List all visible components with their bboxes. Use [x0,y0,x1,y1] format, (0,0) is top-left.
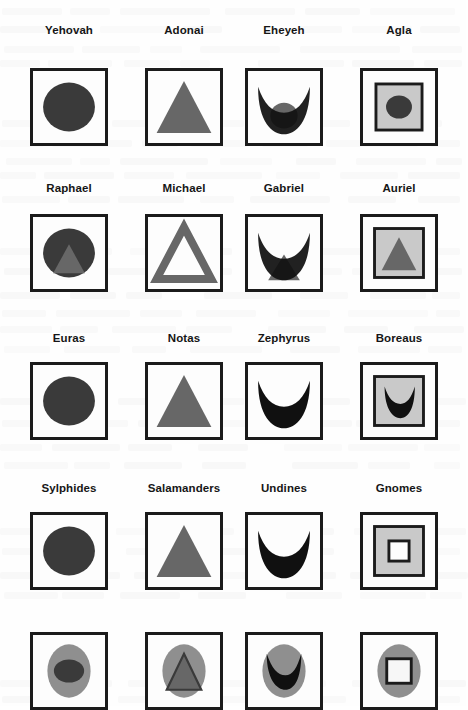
symbol-cell-yehovah [30,68,108,146]
symbol-graphic [33,71,105,143]
symbol-label-sylphides: Sylphides [8,482,130,494]
symbol-label-eheyeh: Eheyeh [223,24,345,36]
symbol-cell-row5-item3 [245,632,323,710]
symbol-cell-agla [360,68,438,146]
symbol-cell-gnomes [360,512,438,590]
symbol-label-gabriel: Gabriel [223,182,345,194]
symbol-graphic [248,515,320,587]
symbol-label-raphael: Raphael [8,182,130,194]
symbol-graphic [148,635,220,707]
symbol-graphic [248,365,320,437]
symbol-cell-salamanders [145,512,223,590]
symbol-cell-auriel [360,214,438,292]
symbol-cell-row5-item1 [30,632,108,710]
symbol-graphic [363,515,435,587]
symbol-cell-row5-item2 [145,632,223,710]
symbol-cell-row5-item4 [360,632,438,710]
symbol-graphic [363,635,435,707]
symbol-label-auriel: Auriel [338,182,460,194]
symbol-cell-sylphides [30,512,108,590]
symbol-cell-boreaus [360,362,438,440]
symbol-cell-gabriel [245,214,323,292]
symbol-cell-adonai [145,68,223,146]
symbol-graphic [148,217,220,289]
symbol-graphic [33,217,105,289]
symbol-graphic [248,635,320,707]
symbol-graphic [248,71,320,143]
symbol-label-euras: Euras [8,332,130,344]
symbol-cell-zephyrus [245,362,323,440]
symbol-graphic [33,365,105,437]
symbol-cell-notas [145,362,223,440]
symbol-label-gnomes: Gnomes [338,482,460,494]
symbol-graphic [363,71,435,143]
symbol-label-yehovah: Yehovah [8,24,130,36]
symbol-cell-euras [30,362,108,440]
symbol-label-boreaus: Boreaus [338,332,460,344]
symbol-graphic [148,71,220,143]
symbol-cell-raphael [30,214,108,292]
symbol-cell-undines [245,512,323,590]
symbol-graphic [363,217,435,289]
symbol-graphic [33,515,105,587]
symbol-cell-michael [145,214,223,292]
symbol-graphic [248,217,320,289]
symbol-graphic [148,515,220,587]
symbol-graphic [148,365,220,437]
symbol-label-agla: Agla [338,24,460,36]
symbol-label-undines: Undines [223,482,345,494]
symbol-label-zephyrus: Zephyrus [223,332,345,344]
symbol-graphic [363,365,435,437]
symbol-cell-eheyeh [245,68,323,146]
symbol-graphic [33,635,105,707]
